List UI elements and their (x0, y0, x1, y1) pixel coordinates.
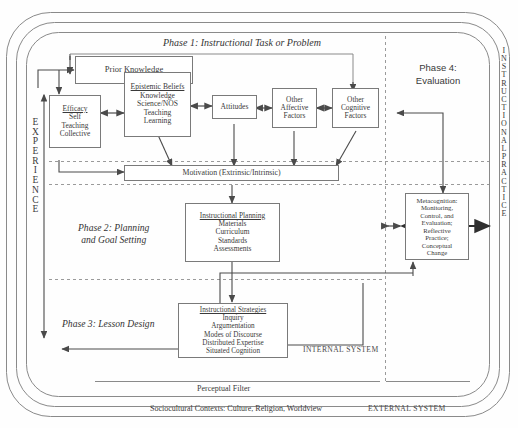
phase-3-label: Phase 3: Lesson Design (62, 318, 154, 329)
phase-2-line-1: Phase 2: Planning (78, 222, 149, 234)
metacognition-line-7: Change (427, 249, 447, 257)
metacognition-line-2: Control, and (420, 212, 453, 220)
box-other-affective-factors[interactable]: Other Affective Factors (272, 88, 317, 128)
epistemic-beliefs-item-3: Learning (144, 117, 171, 126)
box-metacognition[interactable]: Metacognition: Monitoring, Control, and … (405, 193, 469, 260)
attitudes-title: Attitudes (221, 103, 249, 112)
instructional-strategies-item-0: Inquiry (222, 314, 243, 322)
instructional-strategies-title: Instructional Strategies (200, 306, 266, 314)
sociocultural-contexts-label: Sociocultural Contexts: Culture, Religio… (150, 404, 322, 413)
instructional-strategies-item-3: Distributed Expertise (202, 339, 263, 347)
experience-letter-9: E (33, 205, 39, 215)
instructional-planning-item-3: Assessments (214, 245, 252, 253)
phase-4-line-2: Evaluation (403, 75, 473, 88)
instructional-strategies-item-1: Argumentation (211, 322, 254, 330)
metacognition-line-1: Monitoring, (421, 204, 453, 212)
box-efficacy[interactable]: Efficacy Self Teaching Collective (49, 95, 101, 148)
metacognition-line-4: Reflective (423, 227, 450, 235)
metacognition-line-3: Evaluation; (422, 219, 453, 227)
phase-2-label: Phase 2: Planning and Goal Setting (78, 222, 149, 247)
box-motivation[interactable]: Motivation (Extrinsic/Intrinsic) (124, 165, 339, 181)
internal-system-label: INTERNAL SYSTEM (303, 345, 379, 354)
other-cognitive-line-2: Factors (345, 112, 367, 120)
phase-1-label: Phase 1: Instructional Task or Problem (163, 37, 321, 48)
instructional-strategies-item-2: Modes of Discourse (204, 331, 262, 339)
box-epistemic-beliefs[interactable]: Epistemic Beliefs Knowledge Science/NOS … (124, 72, 191, 137)
phase-2-line-2: and Goal Setting (78, 234, 149, 246)
box-instructional-planning[interactable]: Instructional Planning Materials Curricu… (185, 203, 280, 262)
metacognition-line-5: Practice; (425, 234, 448, 242)
box-attitudes[interactable]: Attitudes (212, 95, 257, 119)
diagram-canvas: Prior Knowledge Epistemic Beliefs Knowle… (0, 0, 518, 428)
other-affective-line-2: Factors (284, 112, 306, 120)
instructional-practice-vertical-label: I N S T R U C T I O N A L P R A C T I C … (501, 47, 507, 218)
box-instructional-strategies[interactable]: Instructional Strategies Inquiry Argumen… (178, 303, 288, 358)
phase-4-label: Phase 4: Evaluation (403, 62, 473, 88)
efficacy-item-2: Collective (60, 130, 90, 138)
ip-letter-20: E (501, 210, 506, 218)
external-system-label: EXTERNAL SYSTEM (368, 404, 446, 413)
metacognition-line-0: Metacognition: (417, 197, 458, 205)
experience-vertical-label: E X P E R I E N C E (32, 118, 39, 215)
perceptual-filter-label: Perceptual Filter (197, 384, 250, 393)
instructional-strategies-item-4: Situated Cognition (206, 347, 260, 355)
box-other-cognitive-factors[interactable]: Other Cognitive Factors (332, 88, 379, 128)
metacognition-line-6: Conceptual (422, 242, 452, 250)
motivation-title: Motivation (Extrinsic/Intrinsic) (182, 169, 280, 178)
phase-4-line-1: Phase 4: (403, 62, 473, 75)
